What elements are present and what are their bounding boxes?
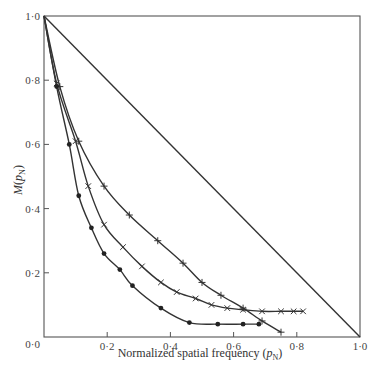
data-series [44, 16, 360, 337]
x-marker [139, 264, 145, 270]
origin-label: 0·0 [25, 338, 40, 350]
mtf-chart: 0·20·40·60·80·20·40·60·80·01·01·0 Normal… [0, 0, 379, 373]
x-axis-label: Normalized spatial frequency (pN) [118, 346, 283, 362]
dot-marker [241, 322, 246, 327]
axis-ticks [44, 80, 297, 337]
y-end-label: 1·0 [25, 10, 40, 22]
series-line-2 [44, 16, 303, 311]
dot-marker [187, 320, 192, 325]
dot-marker [102, 251, 107, 256]
y-tick-label: 0·8 [25, 74, 40, 86]
y-tick-label: 0·2 [25, 267, 40, 279]
x-marker [174, 289, 180, 295]
x-marker [120, 244, 126, 250]
dot-marker [215, 322, 220, 327]
x-marker [101, 222, 107, 228]
x-tick-label: 0·2 [100, 340, 115, 352]
x-tick-label: 0·8 [289, 340, 304, 352]
dot-marker [256, 322, 261, 327]
plus-marker [278, 329, 285, 336]
y-tick-label: 0·4 [25, 203, 40, 215]
x-marker [158, 280, 164, 286]
y-axis-label: M(pN) [11, 165, 27, 196]
series-line-0 [44, 16, 360, 337]
dot-marker [89, 225, 94, 230]
axis-tick-labels: 0·20·40·60·80·20·40·60·80·01·01·0 [25, 10, 367, 352]
data-markers [54, 81, 306, 336]
dot-marker [117, 267, 122, 272]
dot-marker [159, 306, 164, 311]
dot-marker [130, 283, 135, 288]
dot-marker [76, 193, 81, 198]
plus-marker [217, 292, 224, 299]
dot-marker [67, 142, 72, 147]
x-end-label: 1·0 [353, 340, 368, 352]
series-line-1 [44, 16, 281, 332]
dot-marker [54, 84, 59, 89]
series-line-3 [44, 16, 259, 324]
y-tick-label: 0·6 [25, 138, 40, 150]
